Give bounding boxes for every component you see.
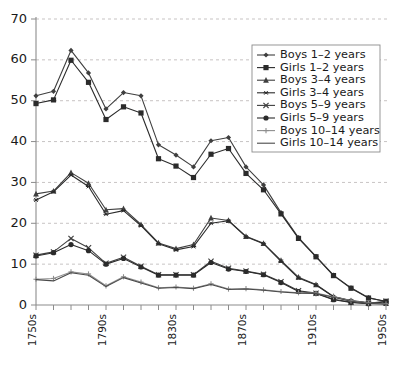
data-point-marker: [278, 280, 283, 285]
data-point-marker: [331, 273, 336, 278]
data-point-marker: [51, 250, 56, 255]
data-point-marker: [208, 221, 213, 225]
legend-label: Girls 5–9 years: [280, 111, 364, 124]
data-point-marker: [156, 273, 161, 278]
data-point-marker: [68, 236, 73, 241]
data-point-marker: [33, 93, 38, 98]
data-point-marker: [138, 264, 143, 269]
data-point-marker: [138, 93, 143, 98]
y-axis-tick-label: 10: [10, 256, 27, 271]
x-axis-tick-label: 1870s: [236, 314, 248, 346]
data-point-marker: [156, 142, 161, 147]
line-chart: 0102030405060701750s1790s1830s1870s1910s…: [0, 0, 401, 365]
y-axis-tick-label: 0: [19, 297, 27, 312]
data-point-marker: [68, 58, 73, 63]
data-point-marker: [103, 212, 108, 216]
data-point-marker: [278, 211, 283, 216]
y-axis-tick-label: 70: [10, 11, 27, 26]
data-point-marker: [263, 115, 268, 120]
data-point-marker: [86, 80, 91, 85]
data-point-marker: [296, 236, 301, 241]
x-axis-tick-label: 1830s: [166, 314, 178, 346]
data-point-marker: [243, 171, 248, 176]
data-point-marker: [263, 65, 268, 70]
legend-label: Boys 10–14 years: [280, 124, 380, 137]
data-point-marker: [103, 117, 108, 122]
chart-canvas: 0102030405060701750s1790s1830s1870s1910s…: [0, 0, 401, 365]
legend-label: Girls 10–14 years: [280, 136, 378, 149]
x-axis-tick-label: 1950s: [376, 314, 388, 346]
data-point-marker: [208, 152, 213, 157]
data-point-marker: [191, 175, 196, 180]
x-axis-tick-label: 1790s: [96, 314, 108, 346]
data-point-marker: [173, 273, 178, 278]
legend-label: Girls 3–4 years: [280, 86, 364, 99]
data-point-marker: [51, 97, 56, 102]
data-point-marker: [173, 163, 178, 168]
legend: Boys 1–2 yearsGirls 1–2 yearsBoys 3–4 ye…: [252, 45, 380, 152]
x-axis-tick-label: 1910s: [306, 314, 318, 346]
legend-label: Girls 1–2 years: [280, 61, 364, 74]
data-point-marker: [51, 89, 56, 94]
data-point-marker: [68, 242, 73, 247]
legend-label: Boys 1–2 years: [280, 48, 366, 61]
data-point-marker: [261, 187, 266, 192]
data-point-marker: [138, 110, 143, 115]
data-point-marker: [243, 269, 248, 274]
data-point-marker: [121, 104, 126, 109]
data-point-marker: [208, 260, 213, 265]
data-point-marker: [33, 101, 38, 106]
y-axis-tick-label: 30: [10, 174, 27, 189]
y-axis-tick-label: 20: [10, 215, 27, 230]
legend-label: Boys 3–4 years: [280, 73, 366, 86]
data-point-marker: [226, 266, 231, 271]
legend-label: Boys 5–9 years: [280, 98, 366, 111]
data-point-marker: [103, 262, 108, 267]
data-point-marker: [226, 135, 231, 140]
data-point-marker: [348, 286, 353, 291]
data-point-marker: [191, 273, 196, 278]
x-axis-tick-label: 1750s: [26, 314, 38, 346]
y-axis-tick-label: 60: [10, 51, 27, 66]
y-axis-tick-label: 50: [10, 92, 27, 107]
data-point-marker: [33, 253, 38, 258]
data-point-marker: [226, 146, 231, 151]
data-point-marker: [86, 248, 91, 253]
data-point-marker: [261, 272, 266, 277]
data-point-marker: [121, 256, 126, 261]
y-axis-tick-label: 40: [10, 133, 27, 148]
data-point-marker: [313, 254, 318, 259]
data-point-marker: [156, 156, 161, 161]
